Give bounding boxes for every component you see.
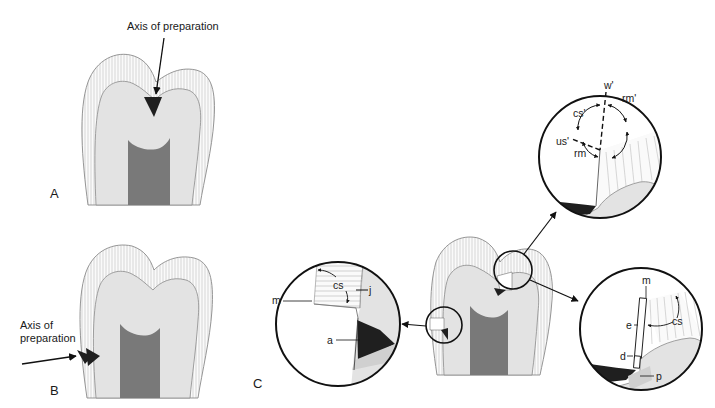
label-m-left: m xyxy=(272,294,281,306)
label-cs-right: cs xyxy=(672,315,683,327)
panel-a-annotation: Axis of preparation xyxy=(127,20,219,32)
label-w-prime: w' xyxy=(603,79,614,91)
label-us-prime: us' xyxy=(556,135,569,147)
label-cs-prime: cs' xyxy=(573,107,586,119)
label-rm: rm xyxy=(574,147,586,159)
label-a: a xyxy=(327,334,333,346)
label-cs-left: cs xyxy=(333,279,344,291)
axis-arrow-b xyxy=(22,356,76,364)
label-e: e xyxy=(626,319,632,331)
panel-a-label: A xyxy=(50,186,59,201)
inset-top xyxy=(539,92,670,230)
inset-left xyxy=(276,250,410,400)
label-p: p xyxy=(656,370,662,382)
panel-c-tooth xyxy=(426,237,552,375)
tooth-preparation-diagram: Axis of preparation A Axis of preparatio… xyxy=(0,0,715,408)
panel-b-annotation-line2: preparation xyxy=(20,332,76,344)
inset-right xyxy=(570,268,710,400)
label-m-right: m xyxy=(642,274,651,286)
label-j: j xyxy=(368,284,371,296)
arrow-to-top-inset xyxy=(524,212,556,254)
panel-b-label: B xyxy=(50,383,59,398)
label-rm-prime: rm' xyxy=(622,92,636,104)
panel-a-tooth xyxy=(82,38,215,205)
label-d: d xyxy=(620,350,626,362)
panel-c-label: C xyxy=(253,376,262,391)
arrow-to-left-inset xyxy=(402,324,426,326)
panel-b-annotation-line1: Axis of xyxy=(20,319,54,331)
